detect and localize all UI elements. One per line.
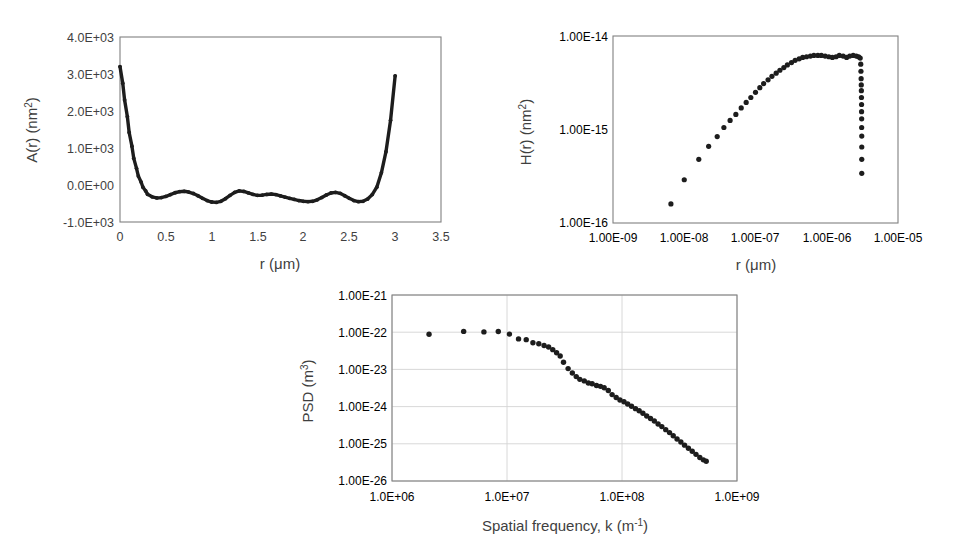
data-point <box>721 125 726 130</box>
data-point <box>182 189 186 193</box>
x-tick-label: 2.5 <box>340 230 357 244</box>
data-point <box>530 340 535 345</box>
panel-b-y-tick-labels: 1.00E-14 1.00E-15 1.00E-16 <box>559 30 608 230</box>
data-point <box>757 85 762 90</box>
data-point <box>269 192 273 196</box>
data-point <box>379 171 383 175</box>
data-point <box>859 88 864 93</box>
x-tick-label: 1 <box>209 230 216 244</box>
panel-b-data-series <box>668 53 864 207</box>
y-tick-label: 1.00E-24 <box>338 400 387 414</box>
data-point <box>357 200 361 204</box>
data-point <box>224 197 228 201</box>
data-point <box>858 69 863 74</box>
data-point <box>561 360 566 365</box>
panel-autocovariance: 4.0E+03 3.0E+03 2.0E+03 1.0E+03 0.0E+00 … <box>0 0 480 280</box>
y-tick-label: 1.00E-25 <box>338 437 387 451</box>
data-point <box>173 191 177 195</box>
data-point <box>859 109 864 114</box>
data-point <box>859 102 864 107</box>
data-point <box>320 196 324 200</box>
data-point <box>859 157 864 162</box>
height-correlation-svg: 1.00E-14 1.00E-15 1.00E-16 H(r) (nm2) 1.… <box>481 0 961 280</box>
data-point <box>859 95 864 100</box>
data-point <box>288 196 292 200</box>
data-point <box>606 388 611 393</box>
data-point <box>237 189 241 193</box>
panel-b-plot-frame <box>613 36 898 223</box>
data-point <box>159 196 163 200</box>
data-point <box>361 199 365 203</box>
data-point <box>233 191 237 195</box>
y-tick-label: 3.0E+03 <box>67 68 114 82</box>
x-tick-label: 3.5 <box>432 230 449 244</box>
data-point <box>343 194 347 198</box>
x-tick-label: 1.00E-06 <box>803 231 852 245</box>
data-point <box>859 76 864 81</box>
x-tick-label: 1.00E-09 <box>589 231 638 245</box>
data-point <box>139 180 143 184</box>
data-point <box>524 337 529 342</box>
data-point <box>144 189 148 193</box>
y-tick-label: 1.00E-23 <box>338 363 387 377</box>
data-curve <box>120 67 395 203</box>
data-point <box>187 190 191 194</box>
three-panel-figure: 4.0E+03 3.0E+03 2.0E+03 1.0E+03 0.0E+00 … <box>0 0 961 560</box>
data-point <box>251 193 255 197</box>
panel-a-y-axis-title: A(r) (nm2) <box>23 97 40 163</box>
data-point <box>242 190 246 194</box>
panel-height-correlation: 1.00E-14 1.00E-15 1.00E-16 H(r) (nm2) 1.… <box>481 0 961 280</box>
data-point <box>210 200 214 204</box>
data-point <box>123 98 127 102</box>
data-point <box>859 144 864 149</box>
data-point <box>338 191 342 195</box>
data-point <box>507 331 512 336</box>
data-point <box>682 177 687 182</box>
data-point <box>733 112 738 117</box>
data-point <box>769 74 774 79</box>
y-tick-label: 2.0E+03 <box>67 105 114 119</box>
data-point <box>130 144 134 148</box>
x-tick-label: 1.00E-07 <box>731 231 780 245</box>
data-point <box>668 201 673 206</box>
data-point <box>696 157 701 162</box>
x-tick-label: 1.00E-08 <box>660 231 709 245</box>
data-point <box>302 199 306 203</box>
y-tick-label: 1.00E-22 <box>338 326 387 340</box>
y-tick-label: 1.00E-16 <box>559 216 608 230</box>
y-tick-label: 1.00E-21 <box>338 289 387 303</box>
data-point <box>219 199 223 203</box>
panel-c-plot-frame <box>392 295 737 481</box>
data-point <box>859 82 864 87</box>
x-tick-label: 1.0E+09 <box>714 490 759 504</box>
y-tick-label: -1.0E+03 <box>63 216 114 230</box>
data-point <box>744 100 749 105</box>
data-point <box>565 366 570 371</box>
data-point <box>334 191 338 195</box>
data-point <box>426 332 431 337</box>
data-point <box>389 118 393 122</box>
data-point <box>141 185 145 189</box>
data-point <box>297 199 301 203</box>
data-point <box>858 62 863 67</box>
data-point <box>366 197 370 201</box>
data-point <box>125 115 129 119</box>
data-point <box>753 90 758 95</box>
data-point <box>761 81 766 86</box>
data-point <box>704 459 709 464</box>
data-point <box>375 185 379 189</box>
y-tick-label: 1.00E-26 <box>338 474 387 488</box>
data-point <box>214 200 218 204</box>
data-point <box>164 195 168 199</box>
panel-psd: 1.00E-21 1.00E-22 1.00E-23 1.00E-24 1.00… <box>281 281 761 560</box>
data-point <box>205 199 209 203</box>
data-point <box>859 125 864 130</box>
y-tick-label: 0.0E+00 <box>67 179 114 193</box>
data-point <box>384 150 388 154</box>
data-point <box>283 195 287 199</box>
x-tick-label: 1.0E+08 <box>599 490 644 504</box>
data-point <box>706 144 711 149</box>
data-point <box>496 329 501 334</box>
data-point <box>765 77 770 82</box>
data-point <box>191 192 195 196</box>
